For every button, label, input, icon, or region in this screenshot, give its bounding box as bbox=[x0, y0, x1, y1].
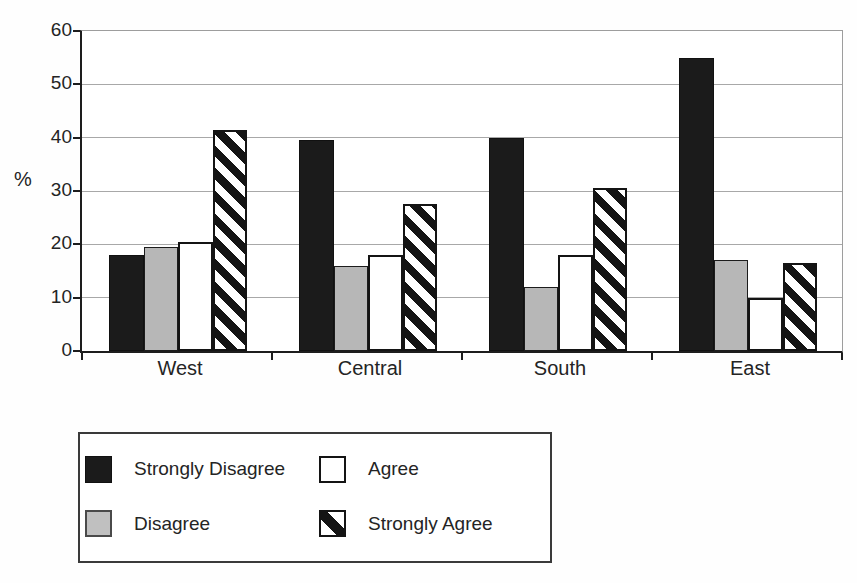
y-axis-tick-label: 50 bbox=[0, 72, 72, 94]
bar-south-agree bbox=[558, 255, 593, 351]
diagonal-stripe-swatch-icon bbox=[319, 510, 346, 537]
bar-south-disagree bbox=[524, 287, 559, 351]
bar-central-disagree bbox=[334, 266, 369, 351]
scanned-bar-chart-figure: % 0102030405060 WestCentralSouthEast Str… bbox=[0, 0, 857, 583]
y-axis-tick bbox=[73, 297, 80, 299]
legend-label: Disagree bbox=[134, 513, 210, 535]
bar-south-strongly-disagree bbox=[489, 138, 524, 351]
gridline-50 bbox=[82, 84, 842, 85]
gray-square-swatch-icon bbox=[85, 510, 112, 537]
y-axis-tick bbox=[73, 190, 80, 192]
legend-item-strongly-disagree: Strongly Disagree bbox=[85, 456, 319, 483]
y-axis-tick bbox=[73, 350, 80, 352]
bar-east-agree bbox=[748, 298, 783, 351]
x-axis-label-west: West bbox=[85, 357, 275, 380]
bar-central-strongly-disagree bbox=[299, 140, 334, 351]
bar-central-agree bbox=[368, 255, 403, 351]
y-axis-tick bbox=[73, 30, 80, 32]
y-axis-tick bbox=[73, 243, 80, 245]
y-axis-tick-label: 10 bbox=[0, 286, 72, 308]
legend-label: Strongly Agree bbox=[368, 513, 493, 535]
x-axis-label-central: Central bbox=[275, 357, 465, 380]
y-axis-tick-label: 60 bbox=[0, 19, 72, 41]
y-axis-tick-label: 30 bbox=[0, 179, 72, 201]
legend-item-disagree: Disagree bbox=[85, 510, 319, 537]
y-axis-tick-label: 20 bbox=[0, 232, 72, 254]
legend-item-agree: Agree bbox=[319, 456, 550, 483]
white-square-swatch-icon bbox=[319, 456, 346, 483]
legend-label: Strongly Disagree bbox=[134, 458, 285, 480]
y-axis-tick bbox=[73, 83, 80, 85]
solid-black-swatch-icon bbox=[85, 456, 112, 483]
bar-chart: % 0102030405060 WestCentralSouthEast bbox=[0, 0, 857, 400]
x-axis-label-east: East bbox=[655, 357, 845, 380]
bar-central-strongly-agree bbox=[403, 204, 438, 351]
bar-west-disagree bbox=[144, 247, 179, 351]
x-axis-label-south: South bbox=[465, 357, 655, 380]
x-axis-tick bbox=[81, 353, 83, 360]
bar-west-strongly-agree bbox=[213, 130, 248, 351]
bar-east-disagree bbox=[714, 260, 749, 351]
bar-west-agree bbox=[178, 242, 213, 351]
gridline-30 bbox=[82, 191, 842, 192]
legend-item-strongly-agree: Strongly Agree bbox=[319, 510, 550, 537]
bar-east-strongly-disagree bbox=[679, 58, 714, 351]
legend-label: Agree bbox=[368, 458, 419, 480]
y-axis-tick-label: 0 bbox=[0, 339, 72, 361]
legend-box: Strongly Disagree Agree Disagree Strongl… bbox=[78, 432, 552, 563]
bar-east-strongly-agree bbox=[783, 263, 818, 351]
bar-west-strongly-disagree bbox=[109, 255, 144, 351]
bar-south-strongly-agree bbox=[593, 188, 628, 351]
plot-area bbox=[80, 30, 843, 353]
y-axis-tick bbox=[73, 137, 80, 139]
y-axis-tick-label: 40 bbox=[0, 126, 72, 148]
gridline-40 bbox=[82, 137, 842, 138]
